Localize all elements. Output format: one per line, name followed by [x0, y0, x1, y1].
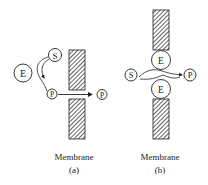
product-out-a: P	[97, 90, 107, 100]
enzyme-top-b: E	[152, 51, 171, 70]
svg-text:E: E	[158, 85, 164, 95]
membrane-enzyme-diagram: E S P P Membrane (a) E E	[0, 0, 208, 185]
membrane-label-b: Membrane	[141, 152, 180, 162]
substrate-a: S	[49, 49, 62, 62]
membrane-top-segment-b	[153, 10, 169, 50]
svg-text:S: S	[52, 51, 57, 61]
conversion-arrow-b-outline	[140, 75, 180, 79]
product-a: P	[47, 89, 57, 99]
svg-text:E: E	[20, 68, 26, 79]
caption-a: (a)	[69, 165, 79, 175]
substrate-b: S	[125, 69, 137, 81]
membrane-bottom-segment-b	[153, 99, 169, 139]
panel-a: E S P P Membrane (a)	[14, 49, 107, 176]
caption-b: (b)	[155, 165, 166, 175]
enzyme-a: E	[14, 64, 32, 82]
svg-text:E: E	[158, 56, 164, 66]
svg-text:P: P	[50, 90, 54, 99]
membrane-top-segment-a	[69, 50, 85, 90]
enzyme-bottom-b: E	[152, 80, 171, 99]
svg-text:P: P	[188, 70, 193, 80]
svg-text:P: P	[100, 91, 104, 100]
panel-b: E E S P Membrane (b)	[125, 10, 196, 175]
product-b: P	[184, 69, 196, 81]
membrane-bottom-segment-a	[69, 99, 85, 139]
svg-text:S: S	[129, 70, 134, 80]
membrane-label-a: Membrane	[55, 152, 94, 162]
conversion-arrow-a-outline	[42, 59, 49, 78]
